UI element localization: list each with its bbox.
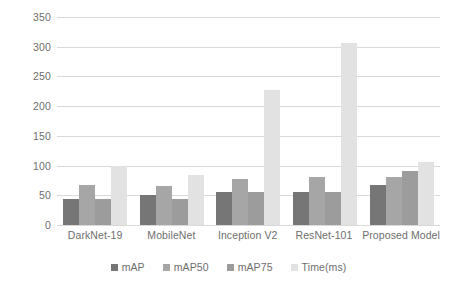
bar-map [293,192,309,225]
y-tick-label: 50 [0,189,51,201]
bar-map75 [325,192,341,225]
legend-label: mAP75 [238,261,273,273]
legend-item[interactable]: mAP [111,261,145,273]
bars [140,17,204,225]
bar-group [57,17,134,225]
bar-group [287,17,364,225]
x-tick-label: ResNet-101 [286,229,362,241]
chart-legend: mAPmAP50mAP75Time(ms) [0,261,457,273]
y-tick-label: 300 [0,41,51,53]
y-tick-label: 250 [0,70,51,82]
x-tick-label: Proposed Model [362,229,440,241]
bar-map75 [172,199,188,225]
legend-swatch-icon [291,264,298,271]
x-tick-label: DarkNet-19 [57,229,133,241]
bar-map50 [79,185,95,225]
y-tick-label: 150 [0,130,51,142]
bars [63,17,127,225]
legend-item[interactable]: mAP75 [227,261,273,273]
bar-group [134,17,211,225]
bar-map [216,192,232,225]
x-tick-label: MobileNet [133,229,209,241]
legend-label: mAP50 [174,261,209,273]
gridline-0 [57,225,440,226]
bar-map [370,185,386,225]
y-tick-label: 350 [0,11,51,23]
bar-time-ms [341,43,357,225]
bar-map [63,199,79,225]
bars [293,17,357,225]
legend-swatch-icon [111,264,118,271]
x-tick-label: Inception V2 [210,229,286,241]
bar-map75 [402,171,418,225]
bar-groups [57,17,440,225]
bar-chart: 050100150200250300350 DarkNet-19MobileNe… [0,0,457,285]
x-axis: DarkNet-19MobileNetInception V2ResNet-10… [57,229,440,241]
legend-item[interactable]: mAP50 [163,261,209,273]
bars [216,17,280,225]
legend-swatch-icon [227,264,234,271]
bar-map50 [386,177,402,225]
legend-swatch-icon [163,264,170,271]
bar-group [363,17,440,225]
bar-map [140,195,156,225]
bar-time-ms [418,162,434,225]
legend-item[interactable]: Time(ms) [291,261,347,273]
legend-label: mAP [122,261,145,273]
y-tick-label: 200 [0,100,51,112]
bar-group [210,17,287,225]
legend-label: Time(ms) [302,261,347,273]
y-axis: 050100150200250300350 [0,17,51,225]
y-tick-label: 100 [0,160,51,172]
bars [370,17,434,225]
bar-map75 [95,199,111,225]
bar-time-ms [188,175,204,225]
bar-map50 [309,177,325,225]
bar-map50 [156,186,172,225]
bar-time-ms [111,166,127,225]
y-tick-label: 0 [0,219,51,231]
bar-map75 [248,192,264,225]
bar-time-ms [264,90,280,225]
bar-map50 [232,179,248,225]
